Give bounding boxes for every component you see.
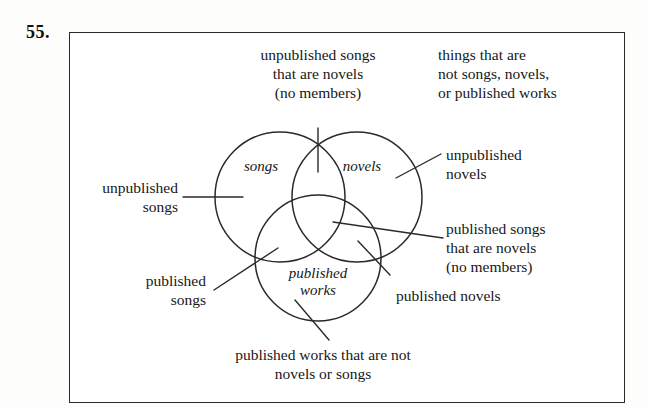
published-works-circle	[255, 195, 381, 321]
label-published-novels: published novels	[396, 286, 546, 305]
leader-published-songs	[214, 248, 278, 290]
label-published-songs-that-are-novels: published songs that are novels (no memb…	[446, 219, 616, 276]
circle-label-novels: novels	[328, 158, 396, 175]
label-unpublished-songs-that-are-novels: unpublished songs that are novels (no me…	[215, 45, 421, 102]
label-unpublished-novels: unpublished novels	[446, 145, 596, 183]
label-unpublished-songs: unpublished songs	[66, 178, 178, 216]
leader-published-songs-that-are-novels	[333, 222, 443, 238]
circle-label-published-works: published works	[272, 265, 364, 299]
label-things-that-are-not-songs-novels-or-published-works: things that are not songs, novels, or pu…	[438, 45, 618, 102]
label-published-works-that-are-not-novels-or-songs: published works that are not novels or s…	[178, 345, 468, 383]
label-published-songs: published songs	[82, 271, 206, 309]
circle-label-songs: songs	[228, 158, 294, 175]
page-canvas: 55. songs novels published works unpubli…	[0, 0, 648, 408]
novels-circle	[292, 132, 422, 262]
